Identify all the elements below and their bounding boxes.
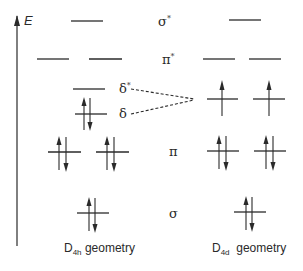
arrowhead-down-icon (250, 223, 255, 232)
arrowhead-up-icon (82, 97, 87, 106)
label-pi-star: π* (162, 52, 175, 67)
label-delta-star: δ* (119, 81, 131, 96)
energy-axis-label: E (24, 13, 33, 28)
arrowhead-down-icon (271, 162, 276, 171)
arrowhead-down-icon (112, 163, 117, 172)
arrowhead-down-icon (93, 224, 98, 233)
d4h-sigma-level (77, 197, 109, 233)
arrowhead-up-icon (220, 80, 225, 90)
mo-diagram: E (0, 0, 303, 271)
correlation-lines (131, 89, 194, 114)
d4d-pi-level-1 (207, 135, 239, 171)
arrowhead-down-icon (64, 163, 69, 172)
d4d-column (203, 20, 286, 232)
arrowhead-down-icon (224, 162, 229, 171)
d4h-pi-level-2 (96, 136, 129, 172)
arrowhead-up-icon (57, 136, 62, 145)
d4h-pi-level-1 (48, 136, 81, 172)
diagram-canvas: E (0, 0, 303, 271)
energy-axis-arrowhead-icon (14, 15, 20, 26)
arrowhead-up-icon (105, 136, 110, 145)
orbital-labels: σ* π* δ* δ π σ (119, 14, 178, 221)
d4d-sigma-level (234, 196, 266, 232)
arrowhead-up-icon (267, 80, 272, 90)
arrowhead-up-icon (87, 197, 92, 206)
arrowhead-up-icon (217, 135, 222, 144)
d4h-delta-level (75, 97, 107, 131)
energy-axis: E (14, 13, 33, 246)
delta-correlation-line (131, 100, 194, 114)
caption-d4h: D4h geometry (64, 241, 135, 257)
arrowhead-up-icon (244, 196, 249, 205)
label-pi: π (169, 144, 178, 159)
d4d-delta-level-2 (253, 80, 285, 116)
label-sigma-star: σ* (158, 14, 171, 29)
d4d-delta-level-1 (207, 80, 238, 116)
arrowhead-down-icon (88, 122, 93, 131)
label-delta: δ (119, 106, 127, 121)
label-sigma: σ (169, 206, 178, 221)
d4d-pi-level-2 (254, 135, 286, 171)
arrowhead-up-icon (264, 135, 269, 144)
caption-d4d: D4d geometry (212, 241, 286, 257)
d4h-column (37, 21, 129, 233)
delta-star-correlation-line (131, 89, 194, 99)
